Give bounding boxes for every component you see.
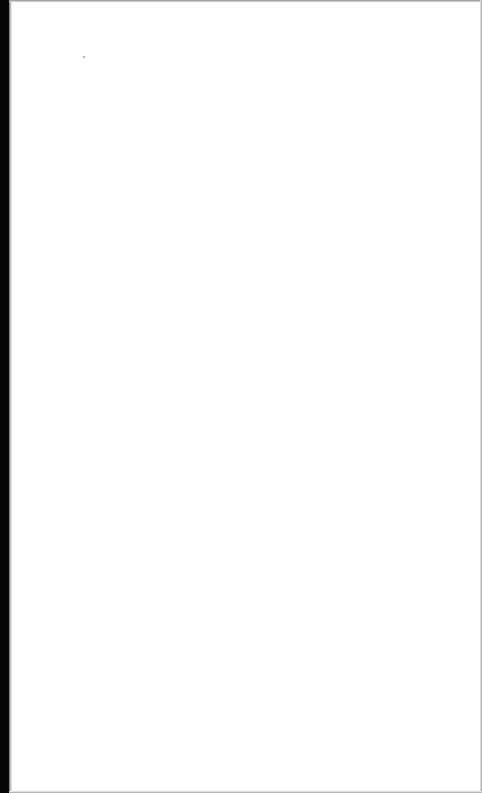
dust-speck	[83, 56, 85, 58]
page-top-edge	[9, 0, 482, 2]
binding-edge-shadow	[0, 0, 9, 793]
blank-scanned-page	[0, 0, 482, 793]
